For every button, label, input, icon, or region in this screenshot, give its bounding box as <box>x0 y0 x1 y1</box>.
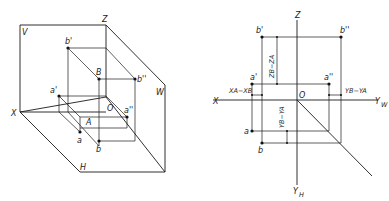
point-a-prime <box>57 94 60 97</box>
point-b <box>260 141 263 144</box>
point-b-dprime <box>339 35 342 38</box>
point-b-prime <box>260 35 263 38</box>
label-z: Z <box>101 15 108 24</box>
point-B <box>97 77 100 80</box>
label-yw-sub: W <box>381 101 388 109</box>
label-h-plane: H <box>80 163 86 172</box>
label-b-prime: b' <box>65 37 72 46</box>
label-a-dprime: a'' <box>324 73 333 82</box>
label-x: X <box>10 109 17 118</box>
axonometric-view: V Z W H X O b' B b'' a' a'' A a b <box>10 15 165 172</box>
label-yw-diff: YB−YA <box>345 87 367 95</box>
w-plane <box>106 25 165 172</box>
y-axis <box>106 97 165 172</box>
point-a <box>78 130 81 133</box>
bisector-45 <box>297 100 372 176</box>
label-z: Z <box>294 11 301 20</box>
label-origin: O <box>107 104 113 113</box>
label-w-plane: W <box>156 88 165 97</box>
label-origin: O <box>299 91 305 100</box>
label-yh-diff: YB−YA <box>278 106 286 128</box>
point-b <box>97 139 100 142</box>
label-b: b <box>96 145 101 154</box>
label-a: a <box>244 127 249 136</box>
label-v-plane: V <box>22 28 28 37</box>
point-a-dprime <box>125 115 128 118</box>
label-a-prime: a' <box>250 73 257 82</box>
label-a-prime: a' <box>50 86 57 95</box>
label-a-dprime: a'' <box>124 106 133 115</box>
point-a-dprime <box>327 82 330 85</box>
label-x: X <box>212 97 219 106</box>
label-a: a <box>77 136 82 145</box>
label-b: b <box>258 146 263 155</box>
label-b-dprime: b'' <box>137 75 146 84</box>
label-z-diff: ZB−ZA <box>268 55 276 79</box>
point-b-prime <box>66 46 69 49</box>
h-plane <box>20 112 165 172</box>
projection-diagram: V Z W H X O b' B b'' a' a'' A a b <box>0 0 389 201</box>
point-a-prime <box>250 82 253 85</box>
v-plane <box>20 25 106 112</box>
point-a <box>250 129 253 132</box>
label-yh-sub: H <box>299 191 304 199</box>
orthographic-view: Z X O Y W Y H b' b'' a' a'' a b XA−XB YB… <box>212 11 388 199</box>
label-x-diff: XA−XB <box>228 87 253 95</box>
label-B: B <box>96 68 102 77</box>
label-b-prime: b' <box>256 26 263 35</box>
label-b-dprime: b'' <box>340 26 349 35</box>
label-A: A <box>85 118 91 127</box>
